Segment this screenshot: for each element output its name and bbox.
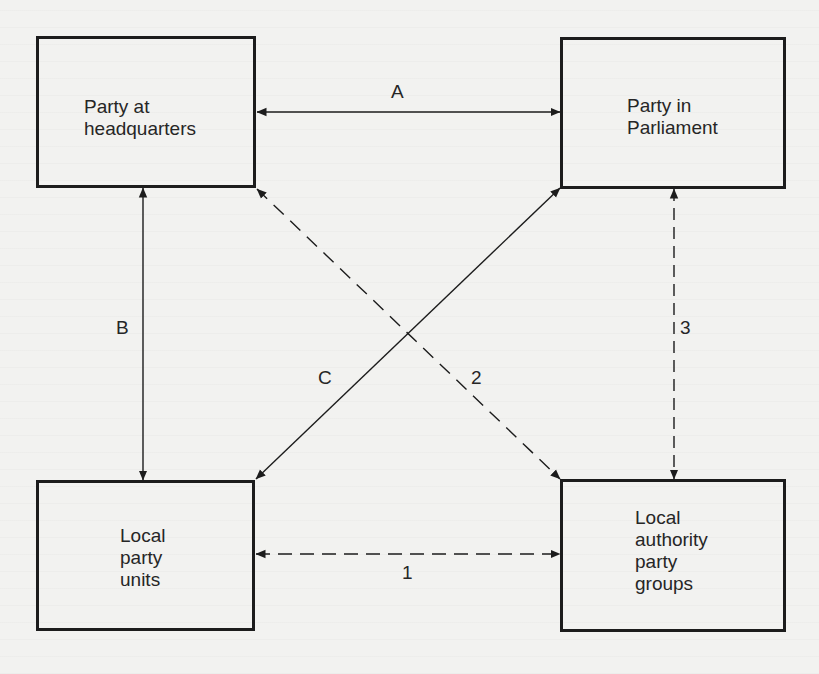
node-label: Party in Parliament (627, 95, 718, 139)
edge-label-1: 1 (402, 563, 413, 583)
edge-label-b: B (116, 318, 129, 338)
node-label: Local party units (120, 525, 165, 591)
edge-label-c: C (318, 368, 332, 388)
node-party-parliament: Party in Parliament (560, 37, 786, 189)
node-local-party-units: Local party units (36, 480, 255, 631)
node-local-authority-groups: Local authority party groups (560, 479, 786, 632)
edge-label-3: 3 (680, 318, 691, 338)
edge-label-2: 2 (471, 368, 482, 388)
edge-label-a: A (391, 82, 404, 102)
node-label: Local authority party groups (635, 507, 708, 595)
node-label: Party at headquarters (84, 96, 196, 140)
node-party-headquarters: Party at headquarters (36, 36, 256, 188)
